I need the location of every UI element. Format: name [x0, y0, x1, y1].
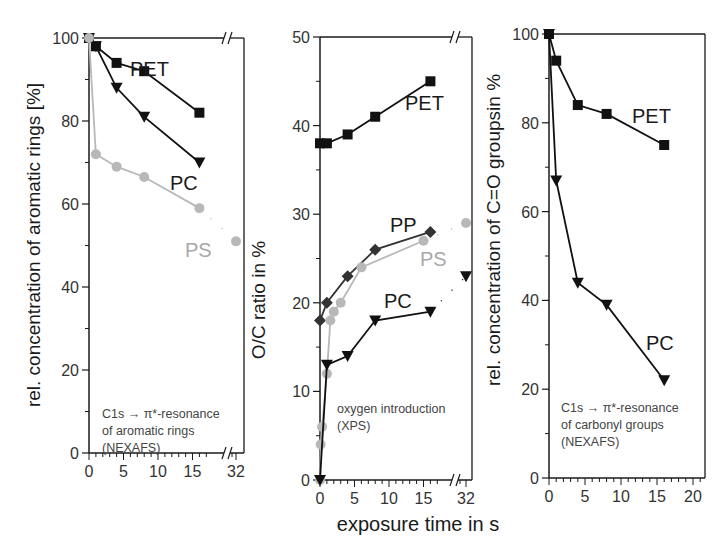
data-point-triangle-down — [193, 158, 205, 169]
data-point-triangle-down — [460, 271, 472, 282]
data-point-triangle-down — [658, 375, 670, 386]
series-label: PS — [185, 239, 212, 261]
panel-oc-ratio: 0102030405005101532O/C ratio in %oxygen … — [248, 29, 475, 507]
x-tick-label: 15 — [648, 488, 666, 505]
data-point-square — [370, 112, 380, 122]
data-point-circle — [316, 440, 326, 450]
series-pet: PET — [315, 76, 444, 148]
annotation-text: of carbonyl groups — [561, 418, 664, 432]
panel-aromatic-rings: 02040608010005101532rel. concentration o… — [23, 30, 245, 480]
y-tick-label: 60 — [521, 204, 539, 221]
y-tick-label: 40 — [521, 292, 539, 309]
x-tick-label: 0 — [545, 488, 554, 505]
data-point-diamond — [424, 226, 436, 238]
series-pet: PET — [84, 33, 204, 118]
x-tick-label: 20 — [684, 488, 702, 505]
data-point-square — [602, 109, 612, 119]
series-label: PET — [130, 58, 169, 80]
panel-carbonyl-groups: 02040608010005101520rel. concentration o… — [483, 26, 705, 505]
data-point-circle — [139, 172, 149, 182]
data-point-triangle-down — [550, 176, 562, 187]
annotation-text: C1s → π*-resonance — [102, 407, 220, 421]
y-tick-label: 50 — [292, 29, 310, 46]
x-tick-label: 15 — [415, 490, 433, 507]
axis-break-mark — [222, 32, 232, 44]
x-tick-label: 5 — [581, 488, 590, 505]
figure: 02040608010005101532rel. concentration o… — [0, 0, 724, 559]
y-tick-label: 20 — [521, 381, 539, 398]
data-point-circle — [329, 307, 339, 317]
annotation-text: (XPS) — [337, 419, 370, 433]
y-tick-label: 10 — [292, 383, 310, 400]
y-axis-label: O/C ratio in % — [248, 241, 269, 359]
data-point-square — [343, 129, 353, 139]
data-point-triangle-down — [321, 360, 333, 371]
annotation-text: C1s → π*-resonance — [561, 401, 679, 415]
x-tick-label: 10 — [149, 463, 167, 480]
x-tick-label: 10 — [612, 488, 630, 505]
x-tick-label: 5 — [350, 490, 359, 507]
series-label: PET — [405, 92, 444, 114]
data-point-circle — [194, 203, 204, 213]
data-point-circle — [317, 422, 327, 432]
annotation-text: (NEXAFS) — [102, 441, 160, 455]
data-point-square — [194, 108, 204, 118]
series-label: PC — [384, 290, 412, 312]
x-tick-label: 15 — [184, 463, 202, 480]
data-point-circle — [91, 149, 101, 159]
x-tick-label: 32 — [227, 463, 245, 480]
series-ps: PS — [315, 218, 471, 485]
y-axis-label: rel. concentration of C=O groupsin % — [483, 74, 504, 386]
x-tick-label: 10 — [380, 490, 398, 507]
y-tick-label: 40 — [292, 118, 310, 135]
data-point-triangle-down — [342, 351, 354, 362]
y-tick-label: 100 — [52, 30, 79, 47]
axis-break-mark — [450, 474, 460, 486]
series-label: PS — [420, 248, 447, 270]
y-tick-label: 30 — [292, 206, 310, 223]
data-point-circle — [325, 316, 335, 326]
y-tick-label: 0 — [70, 445, 79, 462]
y-tick-label: 60 — [61, 196, 79, 213]
data-point-circle — [231, 236, 241, 246]
data-point-circle — [84, 33, 94, 43]
data-point-circle — [336, 298, 346, 308]
data-point-circle — [419, 236, 429, 246]
y-tick-label: 80 — [521, 115, 539, 132]
series-pet: PET — [544, 29, 671, 150]
y-tick-label: 20 — [292, 295, 310, 312]
data-point-square — [425, 76, 435, 86]
y-tick-label: 0 — [530, 470, 539, 487]
data-point-circle — [461, 218, 471, 228]
y-tick-label: 40 — [61, 279, 79, 296]
data-point-circle — [112, 162, 122, 172]
y-axis-label: rel. concentration of aromatic rings [%] — [23, 83, 44, 407]
data-point-circle — [356, 262, 366, 272]
axis-break-mark — [222, 447, 232, 459]
series-pc: PC — [543, 29, 674, 386]
series-label: PC — [646, 332, 674, 354]
series-label: PET — [632, 105, 671, 127]
data-point-square — [112, 58, 122, 68]
annotation-text: of aromatic rings — [102, 424, 194, 438]
x-tick-label: 5 — [119, 463, 128, 480]
y-tick-label: 80 — [61, 113, 79, 130]
shared-x-axis-label: exposure time in s — [337, 513, 499, 535]
y-tick-label: 20 — [61, 362, 79, 379]
x-tick-label: 32 — [457, 490, 475, 507]
axis-break-mark — [450, 31, 460, 43]
data-point-square — [573, 100, 583, 110]
annotation-text: oxygen introduction — [337, 402, 445, 416]
data-point-square — [659, 140, 669, 150]
data-point-square — [322, 138, 332, 148]
y-tick-label: 100 — [512, 26, 539, 43]
y-tick-label: 0 — [301, 472, 310, 489]
annotation-text: (NEXAFS) — [561, 435, 619, 449]
data-point-square — [551, 56, 561, 66]
x-tick-label: 0 — [85, 463, 94, 480]
x-tick-label: 0 — [316, 490, 325, 507]
data-point-diamond — [314, 315, 326, 327]
series-label: PC — [170, 172, 198, 194]
series-label: PP — [390, 214, 417, 236]
